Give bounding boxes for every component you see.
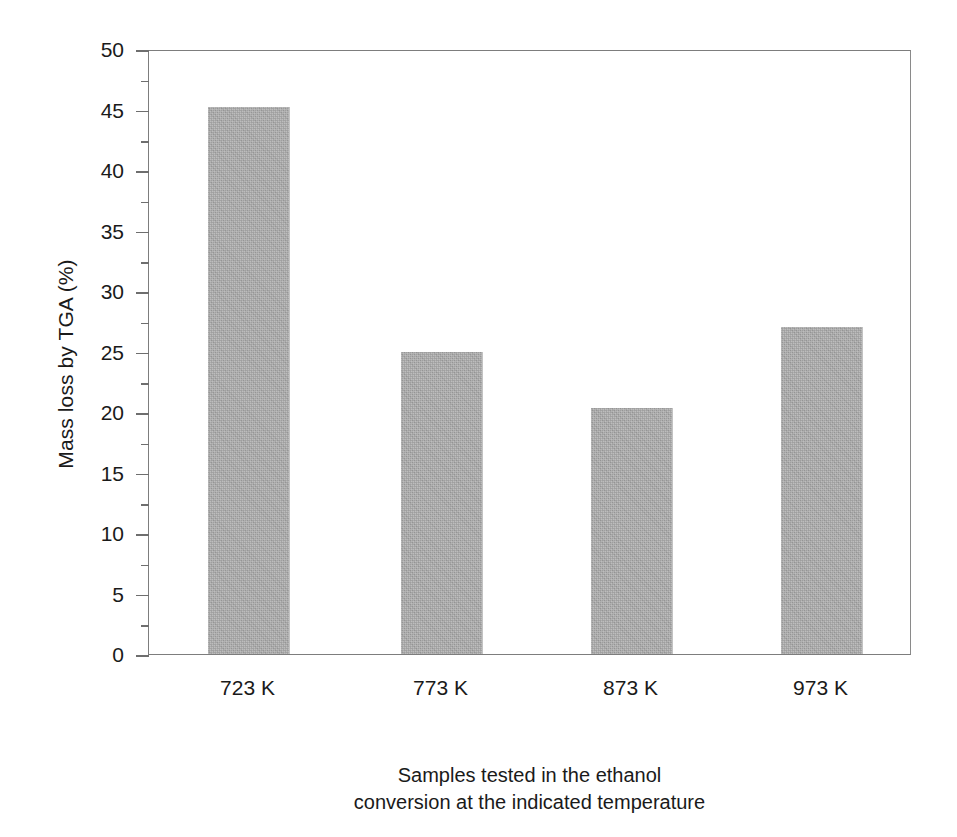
- y-tick-label: 40: [4, 160, 124, 181]
- y-tick-major: [136, 50, 149, 52]
- bar: [591, 408, 673, 654]
- x-tick-label: 723 K: [168, 676, 328, 700]
- y-tick-minor: [141, 202, 149, 204]
- y-tick-minor: [141, 323, 149, 325]
- y-tick-minor: [141, 262, 149, 264]
- y-tick-major: [136, 353, 149, 355]
- plot-inner: [149, 51, 910, 654]
- y-tick-label: 5: [4, 584, 124, 605]
- y-tick-label: 15: [4, 463, 124, 484]
- x-tick-label: 773 K: [361, 676, 521, 700]
- bar: [208, 107, 290, 654]
- y-tick-minor: [141, 383, 149, 385]
- y-tick-major: [136, 474, 149, 476]
- y-tick-label: 35: [4, 221, 124, 242]
- y-tick-major: [136, 232, 149, 234]
- y-tick-minor: [141, 81, 149, 83]
- y-tick-major: [136, 534, 149, 536]
- y-tick-label: 25: [4, 342, 124, 363]
- x-axis-title-line-1: Samples tested in the ethanol: [148, 762, 911, 789]
- plot-area: [148, 50, 911, 655]
- y-axis-title: Mass loss by TGA (%): [54, 64, 78, 664]
- x-axis-title-line-2: conversion at the indicated temperature: [148, 789, 911, 816]
- y-tick-minor: [141, 141, 149, 143]
- figure-canvas: Mass loss by TGA (%) 0510152025303540455…: [0, 0, 957, 837]
- x-tick-label: 973 K: [741, 676, 901, 700]
- y-tick-minor: [141, 565, 149, 567]
- y-tick-minor: [141, 625, 149, 627]
- y-tick-major: [136, 413, 149, 415]
- y-tick-label: 10: [4, 523, 124, 544]
- y-tick-minor: [141, 444, 149, 446]
- y-tick-major: [136, 292, 149, 294]
- y-tick-label: 50: [4, 39, 124, 60]
- x-axis-title: Samples tested in the ethanol conversion…: [148, 762, 911, 816]
- y-tick-label: 0: [4, 644, 124, 665]
- y-tick-label: 45: [4, 100, 124, 121]
- y-tick-major: [136, 171, 149, 173]
- y-tick-minor: [141, 504, 149, 506]
- y-tick-major: [136, 595, 149, 597]
- y-tick-major: [136, 655, 149, 657]
- bar: [781, 327, 863, 654]
- y-tick-label: 30: [4, 281, 124, 302]
- y-tick-label: 20: [4, 402, 124, 423]
- x-tick-label: 873 K: [551, 676, 711, 700]
- y-tick-major: [136, 111, 149, 113]
- bar: [401, 352, 483, 655]
